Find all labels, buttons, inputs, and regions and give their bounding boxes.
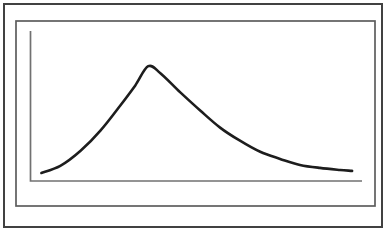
plot-svg xyxy=(0,0,387,233)
figure-outer-frame xyxy=(4,4,382,227)
figure-inner-frame xyxy=(16,21,375,206)
figure-canvas xyxy=(0,0,387,233)
distribution-curve xyxy=(41,66,352,173)
